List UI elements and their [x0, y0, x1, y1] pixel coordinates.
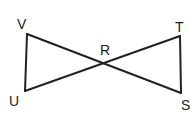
label-U: U: [9, 93, 19, 109]
label-R: R: [100, 42, 110, 58]
segment-VU: [25, 34, 27, 91]
label-T: T: [175, 19, 184, 35]
bowtie-diagram: V T R U S: [0, 0, 195, 115]
label-S: S: [181, 97, 190, 113]
label-V: V: [17, 16, 27, 32]
segment-TS: [180, 36, 181, 93]
